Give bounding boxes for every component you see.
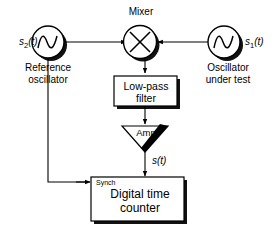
synch-label: Synch (96, 179, 115, 187)
digital-time-counter-label: Digital time counter (110, 188, 169, 216)
mixer-symbol (124, 26, 157, 59)
mixer-label: Mixer (129, 6, 153, 18)
reference-oscillator-name-line1: Reference (25, 62, 71, 74)
oscillator-under-test-name: Oscillator under test (206, 62, 250, 85)
low-pass-filter-label-line2: filter (124, 92, 169, 104)
amplifier-label: Amp (136, 128, 156, 139)
oscillator-under-test-signal-label: s1(t) (245, 36, 264, 51)
block-diagram: s2(t) Reference oscillator s1(t) Oscilla… (0, 0, 279, 232)
reference-oscillator-name-line2: oscillator (25, 74, 71, 86)
signal-suffix: (t) (157, 155, 166, 166)
reference-oscillator-signal-label: s2(t) (19, 36, 38, 51)
oscillator-under-test-symbol (208, 26, 240, 58)
low-pass-filter-label-line1: Low-pass (124, 80, 169, 92)
digital-time-counter-label-line1: Digital time (110, 188, 169, 202)
reference-oscillator-name: Reference oscillator (25, 62, 71, 85)
signal-suffix: (t) (254, 36, 263, 47)
oscillator-under-test-name-line1: Oscillator (206, 62, 250, 74)
output-signal-label: s(t) (152, 155, 166, 167)
signal-suffix: (t) (28, 36, 37, 47)
low-pass-filter-label: Low-pass filter (124, 80, 169, 104)
digital-time-counter-label-line2: counter (110, 202, 169, 216)
oscillator-under-test-name-line2: under test (206, 74, 250, 86)
